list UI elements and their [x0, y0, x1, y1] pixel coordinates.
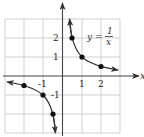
- y-tick-label: -1: [51, 90, 60, 100]
- reciprocal-function-graph: x -1 1 2 2 1 -1 y = 1 x: [0, 0, 144, 137]
- curve-negative-branch: [7, 82, 56, 133]
- equation-label: y = 1 x: [86, 26, 113, 47]
- point-0.5-2: [69, 35, 74, 40]
- point-neg1-neg1: [40, 92, 45, 97]
- point-1-1: [79, 54, 84, 59]
- y-tick-label: 2: [53, 33, 59, 43]
- y-tick-label: 1: [53, 52, 59, 62]
- x-tick-label: -1: [38, 79, 47, 89]
- x-tick-label: 2: [98, 79, 104, 89]
- point-2-0.5: [98, 64, 103, 69]
- svg-text:x: x: [106, 37, 111, 47]
- x-tick-label: 1: [79, 79, 85, 89]
- point-neg2-neg0.5: [21, 83, 26, 88]
- svg-text:1: 1: [107, 26, 113, 36]
- svg-text:y =: y =: [86, 32, 103, 42]
- point-neg0.5-neg2: [50, 111, 55, 116]
- x-axis-label: x: [140, 70, 144, 81]
